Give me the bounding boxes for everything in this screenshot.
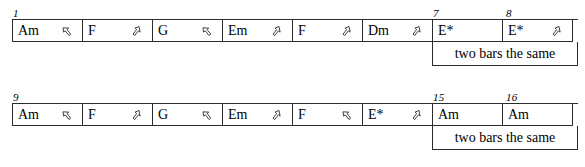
up-right-arrow-icon xyxy=(272,24,285,37)
chord-label: Am xyxy=(18,24,39,38)
up-left-arrow-icon xyxy=(62,24,75,37)
up-left-arrow-icon xyxy=(202,108,215,121)
bar-number-strip: 1 7 8 xyxy=(12,4,578,19)
chord-label: F xyxy=(298,24,306,38)
up-right-arrow-icon xyxy=(272,108,285,121)
chord-label: F xyxy=(88,24,96,38)
chord-system-bars-1-8: 1 7 8 Am F xyxy=(12,4,578,66)
chord-label: F xyxy=(88,108,96,122)
bar-cell-7[interactable]: E* xyxy=(433,20,503,42)
up-right-arrow-icon xyxy=(132,24,145,37)
bar-cell-1[interactable]: Am xyxy=(13,20,83,42)
bar-cell-9[interactable]: Am xyxy=(13,104,83,126)
bar-number-8: 8 xyxy=(506,8,512,19)
bar-cell-10[interactable]: F xyxy=(83,104,153,126)
up-right-arrow-icon xyxy=(132,108,145,121)
annotation-cell: two bars the same xyxy=(432,126,578,150)
bar-cell-13[interactable]: F xyxy=(293,104,363,126)
annotation-cell: two bars the same xyxy=(432,42,578,66)
chord-label: Em xyxy=(228,24,247,38)
bar-cell-14[interactable]: E* xyxy=(363,104,433,126)
chord-label: Am xyxy=(438,108,459,122)
bar-cell-5[interactable]: F xyxy=(293,20,363,42)
chord-label: F xyxy=(298,108,306,122)
bar-cell-11[interactable]: G xyxy=(153,104,223,126)
chord-label: Em xyxy=(228,108,247,122)
up-right-arrow-icon xyxy=(552,24,565,37)
chord-label: G xyxy=(158,24,168,38)
bar-row: Am F G xyxy=(12,103,578,126)
bar-cell-8[interactable]: E* xyxy=(503,20,573,42)
annotation-label: two bars the same xyxy=(455,131,556,145)
up-right-arrow-icon xyxy=(412,108,425,121)
up-left-arrow-icon xyxy=(62,108,75,121)
annotation-row: two bars the same xyxy=(12,126,578,150)
bar-cell-15[interactable]: Am xyxy=(433,104,503,126)
up-right-arrow-icon xyxy=(342,24,355,37)
bar-cell-6[interactable]: Dm xyxy=(363,20,433,42)
bar-number-15: 15 xyxy=(433,92,444,103)
bar-number-strip: 9 15 16 xyxy=(12,88,578,103)
chord-label: Am xyxy=(18,108,39,122)
annotation-label: two bars the same xyxy=(455,47,556,61)
bar-cell-3[interactable]: G xyxy=(153,20,223,42)
bar-number-16: 16 xyxy=(506,92,517,103)
bar-cell-12[interactable]: Em xyxy=(223,104,293,126)
chord-label: Dm xyxy=(368,24,389,38)
chord-label: G xyxy=(158,108,168,122)
bar-cell-4[interactable]: Em xyxy=(223,20,293,42)
bar-cell-2[interactable]: F xyxy=(83,20,153,42)
up-left-arrow-icon xyxy=(202,24,215,37)
up-right-arrow-icon xyxy=(412,24,425,37)
bar-number-9: 9 xyxy=(13,92,19,103)
chord-chart-sheet: 1 7 8 Am F xyxy=(0,0,585,167)
chord-label: E* xyxy=(438,24,454,38)
up-left-arrow-icon xyxy=(342,108,355,121)
chord-label: Am xyxy=(508,108,529,122)
chord-label: E* xyxy=(508,24,524,38)
chord-system-bars-9-16: 9 15 16 Am F xyxy=(12,88,578,150)
bar-number-7: 7 xyxy=(433,8,439,19)
bar-cell-16[interactable]: Am xyxy=(503,104,573,126)
chord-label: E* xyxy=(368,108,384,122)
annotation-row: two bars the same xyxy=(12,42,578,66)
bar-row: Am F G xyxy=(12,19,578,42)
bar-number-1: 1 xyxy=(13,8,19,19)
